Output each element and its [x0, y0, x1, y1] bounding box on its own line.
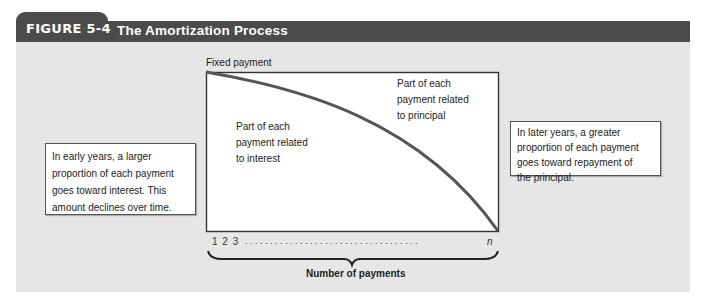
x-axis-label: Number of payments	[306, 268, 405, 279]
interest-region-label: Part of each payment related to interest	[236, 119, 308, 167]
x-axis-tick-n: n	[487, 236, 493, 247]
fixed-payment-label: Fixed payment	[206, 55, 272, 71]
early-years-callout: In early years, a larger proportion of e…	[45, 143, 196, 215]
x-axis-ticks-start: 1 2 3	[212, 236, 239, 247]
later-years-callout: In later years, a greater proportion of …	[510, 121, 661, 176]
x-axis-brace	[208, 251, 498, 265]
principal-region-label: Part of each payment related to principa…	[397, 76, 469, 124]
x-axis-ticks-dots: . . . . . . . . . . . . . . . . . . . . …	[245, 236, 418, 246]
